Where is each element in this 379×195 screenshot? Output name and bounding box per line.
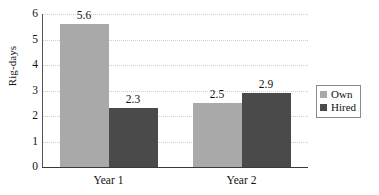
legend-label: Own [331, 89, 352, 100]
bar-hired-year-2[interactable] [242, 93, 291, 167]
bar-chart: Rig-days 0123456 5.62.32.52.9 Year 1Year… [0, 0, 379, 195]
y-axis-title: Rig-days [6, 28, 18, 104]
y-axis-tick-labels: 0123456 [22, 0, 38, 195]
bar-value-label: 2.3 [109, 94, 158, 106]
legend-label: Hired [331, 102, 356, 113]
bar-value-label: 2.5 [193, 89, 242, 101]
bar-value-label: 2.9 [242, 79, 291, 91]
y-axis-tick-label: 5 [24, 34, 38, 46]
legend-item-own[interactable]: Own [320, 88, 356, 101]
y-axis-tick-label: 2 [24, 110, 38, 122]
bar-group: 5.62.3 [60, 14, 158, 167]
bar-value-label: 5.6 [60, 10, 109, 22]
legend-swatch-icon [320, 91, 327, 98]
legend: OwnHired [316, 85, 361, 118]
bar-own-year-1[interactable] [60, 24, 109, 167]
y-axis-tick-label: 0 [24, 161, 38, 173]
legend-item-hired[interactable]: Hired [320, 101, 356, 114]
y-axis-tick-label: 4 [24, 59, 38, 71]
legend-swatch-icon [320, 104, 327, 111]
category-label: Year 1 [42, 174, 175, 186]
category-label: Year 2 [175, 174, 308, 186]
y-axis-tick-label: 1 [24, 136, 38, 148]
plot-area: 5.62.32.52.9 [42, 14, 308, 167]
y-axis-tick-label: 3 [24, 85, 38, 97]
bar-own-year-2[interactable] [193, 103, 242, 167]
bar-hired-year-1[interactable] [109, 108, 158, 167]
bar-group: 2.52.9 [193, 14, 291, 167]
y-axis-tick-label: 6 [24, 8, 38, 20]
